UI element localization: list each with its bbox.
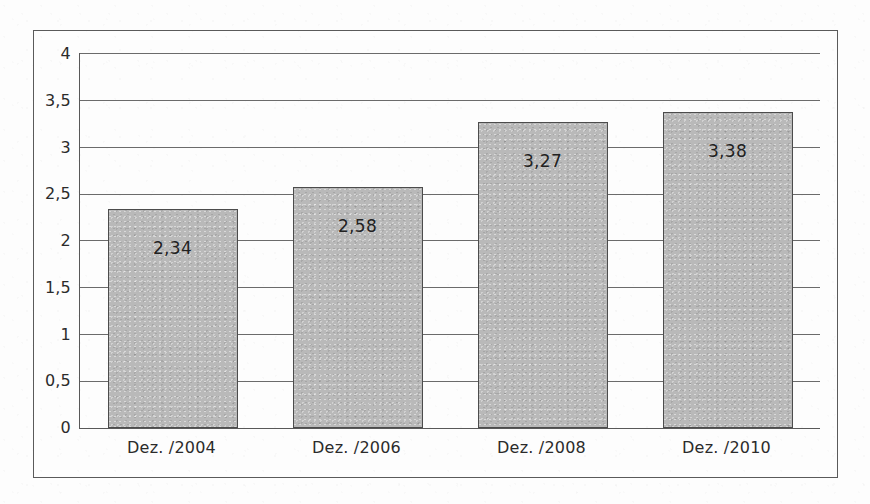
y-axis-tick-label: 3,5 [45, 90, 71, 109]
plot-area: 2,342,583,273,38 [79, 53, 820, 429]
x-axis-tick-label: Dez. /2010 [634, 438, 819, 457]
bar-value-label: 2,58 [294, 216, 422, 236]
y-axis-tick-label: 2,5 [45, 184, 71, 203]
y-axis-tick-label: 1 [61, 324, 71, 343]
y-axis-tick-label: 1,5 [45, 277, 71, 296]
gridline [80, 100, 820, 101]
bar[interactable]: 3,38 [663, 112, 793, 428]
y-axis-tick-label: 2 [61, 231, 71, 250]
y-axis-tick-label: 0,5 [45, 371, 71, 390]
y-axis-tick-label: 0 [61, 418, 71, 437]
bar-value-label: 2,34 [109, 238, 237, 258]
x-axis-tick-label: Dez. /2006 [264, 438, 449, 457]
y-axis-tick-label: 3 [61, 137, 71, 156]
bar-value-label: 3,27 [479, 151, 607, 171]
x-axis-tick-label: Dez. /2004 [79, 438, 264, 457]
bar[interactable]: 3,27 [478, 122, 608, 428]
y-axis-tick-label: 4 [61, 44, 71, 63]
bar[interactable]: 2,34 [108, 209, 238, 428]
bar-value-label: 3,38 [664, 141, 792, 161]
bar[interactable]: 2,58 [293, 187, 423, 428]
y-axis-tick-labels: 00,511,522,533,54 [33, 53, 71, 429]
gridline [80, 53, 820, 54]
chart-page: 00,511,522,533,54 2,342,583,273,38 Dez. … [0, 0, 870, 504]
x-axis-tick-label: Dez. /2008 [449, 438, 634, 457]
